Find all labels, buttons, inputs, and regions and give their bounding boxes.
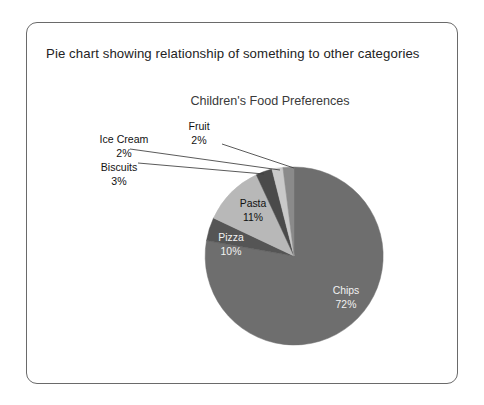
callout-label-fruit-value: 2% xyxy=(191,134,207,146)
callout-label-ice-cream-name: Ice Cream xyxy=(100,133,149,145)
slice-label-chips-name: Chips xyxy=(333,285,360,296)
pie-chart-svg: Fruit 2% Ice Cream 2% Biscuits 3% Pasta … xyxy=(26,22,458,384)
pie-chart: Children's Food Preferences Fruit 2% Ice… xyxy=(26,22,458,384)
slice-label-pasta-name: Pasta xyxy=(240,198,267,209)
leader-line-ice-cream xyxy=(130,149,280,170)
slice-label-pizza-name: Pizza xyxy=(218,232,244,243)
slice-label-pizza-value: 10% xyxy=(221,246,242,257)
callout-label-ice-cream-value: 2% xyxy=(116,147,132,159)
slice-label-chips-value: 72% xyxy=(336,299,357,310)
callout-label-fruit-name: Fruit xyxy=(188,120,209,132)
leader-line-fruit xyxy=(222,144,294,168)
callout-label-biscuits-name: Biscuits xyxy=(101,161,138,173)
callout-label-biscuits-value: 3% xyxy=(111,175,127,187)
slice-label-pasta-value: 11% xyxy=(243,212,263,223)
leader-line-biscuits xyxy=(138,163,264,174)
